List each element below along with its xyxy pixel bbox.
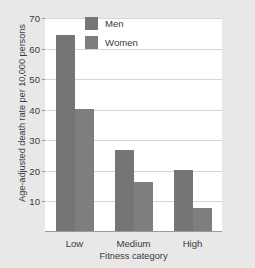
bar-men-medium — [115, 150, 134, 231]
y-tick-label: 10 — [29, 196, 40, 207]
y-tick-label: 60 — [29, 43, 40, 54]
x-axis-title: Fitness category — [45, 251, 222, 261]
y-tick-mark — [42, 18, 45, 19]
y-tick-mark — [42, 110, 45, 111]
legend-item-women: Women — [85, 33, 138, 52]
y-tick-label: 50 — [29, 74, 40, 85]
y-tick-mark — [42, 79, 45, 80]
y-axis-title: Age-adjusted death rate per 10,000 perso… — [17, 3, 27, 223]
y-tick-label: 20 — [29, 165, 40, 176]
x-tick-label-low: Low — [66, 238, 84, 249]
bar-women-low — [75, 109, 94, 231]
bar-women-high — [193, 208, 212, 231]
y-axis-line — [45, 18, 46, 232]
y-tick-mark — [42, 171, 45, 172]
legend-item-men: Men — [85, 14, 138, 33]
bar-men-high — [174, 170, 193, 231]
legend-swatch-men-icon — [85, 17, 98, 30]
bar-chart-figure: Age-adjusted death rate per 10,000 perso… — [0, 0, 255, 268]
x-tick-label-medium: Medium — [116, 238, 150, 249]
y-tick-mark — [42, 49, 45, 50]
y-tick-mark — [42, 140, 45, 141]
bar-men-low — [56, 35, 75, 231]
legend-label-women: Women — [105, 37, 138, 48]
bar-women-medium — [134, 182, 153, 231]
x-axis-line — [45, 231, 222, 232]
y-tick-label: 30 — [29, 135, 40, 146]
y-tick-label: 40 — [29, 104, 40, 115]
legend-swatch-women-icon — [85, 36, 98, 49]
y-tick-label: 70 — [29, 13, 40, 24]
legend-label-men: Men — [105, 18, 124, 29]
x-tick-label-high: High — [183, 238, 203, 249]
y-tick-mark — [42, 201, 45, 202]
chart-legend: Men Women — [85, 14, 138, 52]
